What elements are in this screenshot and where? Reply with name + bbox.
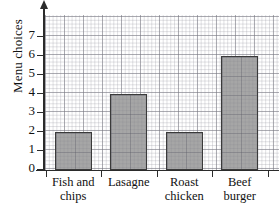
bar-chart: Menu choices 01234567 Fish andchipsLasag…	[0, 0, 279, 206]
y-tick-4	[37, 93, 44, 94]
y-axis-label-0: 0	[23, 163, 35, 173]
y-tick-0	[37, 169, 44, 170]
x-tick-4	[268, 170, 269, 177]
y-axis-arrow-icon	[40, 0, 48, 9]
category-label-beef-burger: Beefburger	[212, 175, 268, 203]
bar-lasagne	[110, 94, 147, 170]
y-tick-3	[37, 112, 44, 113]
y-axis-label-2: 2	[23, 125, 35, 135]
category-label-roast-chicken: Roastchicken	[157, 175, 213, 203]
y-tick-1	[37, 150, 44, 151]
y-tick-5	[37, 74, 44, 75]
y-axis-label-3: 3	[23, 106, 35, 116]
y-axis-label-6: 6	[23, 49, 35, 59]
bar-roast-chicken	[166, 132, 203, 170]
y-axis-line	[43, 8, 45, 171]
bar-fish-and-chips	[55, 132, 92, 170]
y-tick-6	[37, 55, 44, 56]
category-label-lasagne: Lasagne	[101, 175, 157, 189]
category-label-fish-and-chips: Fish andchips	[46, 175, 102, 203]
y-axis-label-5: 5	[23, 68, 35, 78]
bar-beef-burger	[221, 56, 258, 170]
y-tick-2	[37, 131, 44, 132]
y-axis-label-4: 4	[23, 87, 35, 97]
y-axis-label-1: 1	[23, 144, 35, 154]
y-tick-7	[37, 36, 44, 37]
y-axis-label-7: 7	[23, 30, 35, 40]
